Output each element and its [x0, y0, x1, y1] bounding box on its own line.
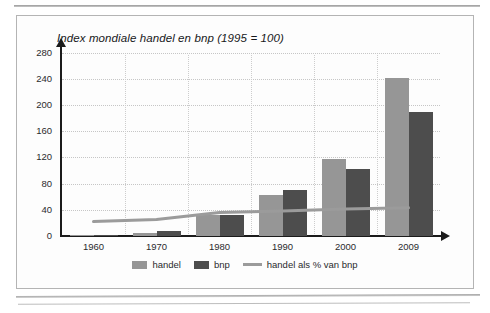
swatch-light-gray-icon [132, 261, 147, 269]
bar-bnp-1990 [283, 190, 307, 236]
bar-series-layer [0, 0, 490, 236]
bar-handel-2009 [385, 78, 409, 236]
bar-bnp-1970 [157, 231, 181, 236]
x-tick-label: 2009 [379, 241, 439, 252]
bar-handel-2000 [322, 159, 346, 236]
legend-item-handel-als-van-bnp: handel als % van bnp [243, 259, 358, 270]
x-tick-label: 1990 [253, 241, 313, 252]
bar-handel-1970 [133, 233, 157, 236]
bar-handel-1990 [259, 195, 283, 236]
legend-item-bnp: bnp [194, 259, 230, 270]
figure-page: Index mondiale handel en bnp (1995 = 100… [0, 0, 490, 313]
bar-bnp-2000 [346, 169, 370, 236]
bar-bnp-1960 [94, 235, 118, 237]
bar-handel-1980 [196, 215, 220, 236]
x-tick-label: 1960 [64, 241, 124, 252]
x-tick-label: 2000 [316, 241, 376, 252]
bar-bnp-1980 [220, 215, 244, 236]
x-tick-label: 1970 [127, 241, 187, 252]
bar-handel-1960 [70, 235, 94, 237]
legend-label: handel [152, 259, 181, 270]
line-gray-icon [243, 263, 262, 266]
bar-bnp-2009 [409, 112, 433, 236]
chart-plot-area: Index mondiale handel en bnp (1995 = 100… [0, 0, 490, 313]
legend-label: handel als % van bnp [267, 259, 358, 270]
swatch-dark-gray-icon [194, 261, 209, 269]
legend-label: bnp [214, 259, 230, 270]
x-tick-label: 1980 [190, 241, 250, 252]
chart-legend: handelbnphandel als % van bnp [0, 259, 490, 270]
legend-item-handel: handel [132, 259, 181, 270]
